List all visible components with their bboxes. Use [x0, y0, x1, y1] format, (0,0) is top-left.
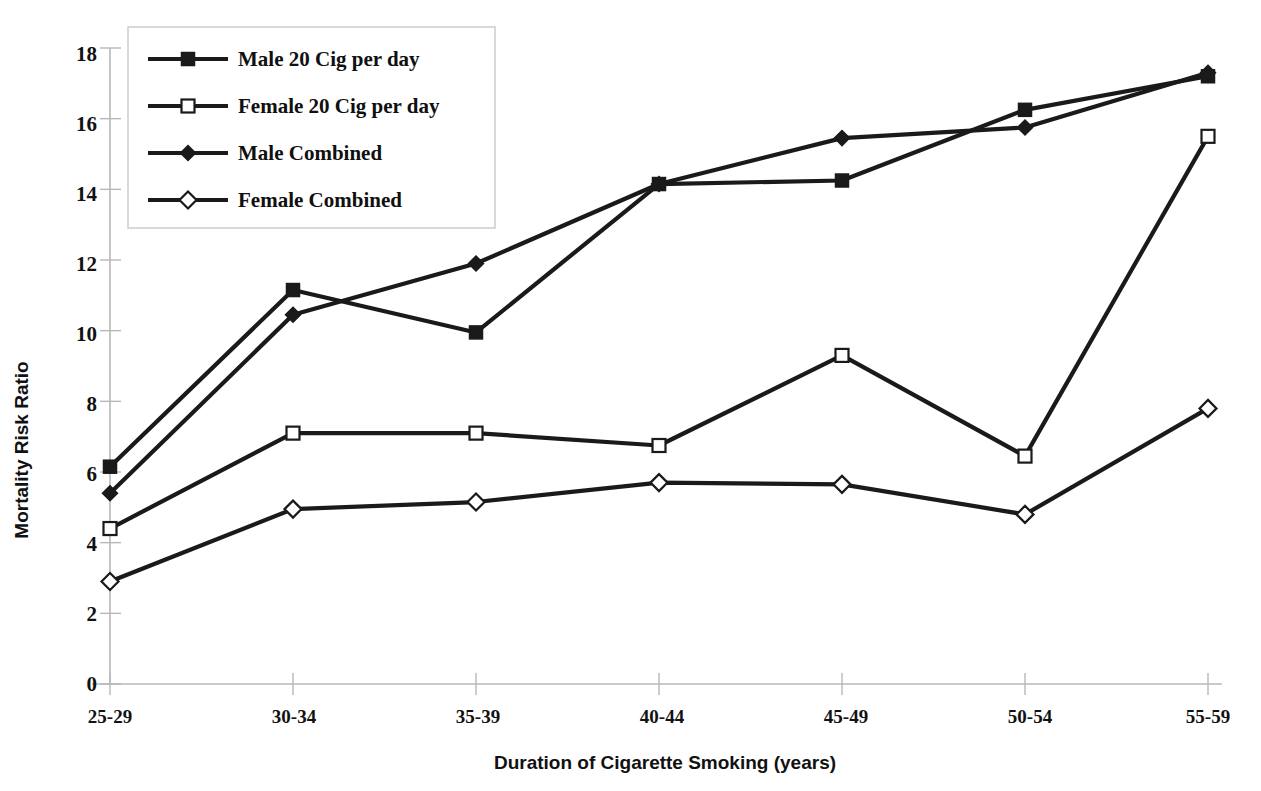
legend-label-female-combined: Female Combined	[238, 188, 402, 212]
x-tick-label-30-34: 30-34	[272, 706, 317, 727]
x-axis-title: Duration of Cigarette Smoking (years)	[494, 752, 836, 773]
y-tick-label-0: 0	[87, 672, 98, 696]
marker-filled-square	[836, 174, 849, 187]
y-tick-label-10: 10	[76, 322, 97, 346]
legend: Male 20 Cig per day Female 20 Cig per da…	[128, 27, 495, 228]
x-tick-label-40-44: 40-44	[640, 706, 685, 727]
marker-open-square	[653, 439, 666, 452]
x-tick-label-45-49: 45-49	[824, 706, 868, 727]
y-tick-label-14: 14	[76, 182, 98, 206]
x-tick-label-50-54: 50-54	[1008, 706, 1053, 727]
marker-filled-square	[470, 326, 483, 339]
x-tick-label-35-39: 35-39	[456, 706, 500, 727]
y-tick-label-8: 8	[87, 392, 98, 416]
legend-label-male-20-cig: Male 20 Cig per day	[238, 47, 420, 71]
y-axis-title: Mortality Risk Ratio	[11, 361, 32, 538]
marker-open-square	[1019, 450, 1032, 463]
marker-open-square	[182, 100, 195, 113]
marker-filled-square	[104, 460, 117, 473]
marker-filled-square	[287, 284, 300, 297]
legend-label-male-combined: Male Combined	[238, 141, 382, 165]
x-tick-label-55-59: 55-59	[1186, 706, 1230, 727]
y-tick-label-2: 2	[87, 602, 98, 626]
chart-container: 0 2 4 6 8 10 12 14 16 18 25-29 30-34 35-…	[0, 0, 1261, 791]
marker-open-square	[470, 427, 483, 440]
y-tick-label-18: 18	[76, 42, 97, 66]
y-tick-label-12: 12	[76, 252, 97, 276]
marker-open-square	[287, 427, 300, 440]
line-chart: 0 2 4 6 8 10 12 14 16 18 25-29 30-34 35-…	[0, 0, 1261, 791]
marker-open-square	[1202, 130, 1215, 143]
legend-label-female-20-cig: Female 20 Cig per day	[238, 94, 440, 118]
x-tick-label-25-29: 25-29	[88, 706, 132, 727]
y-tick-label-4: 4	[87, 532, 98, 556]
marker-filled-square	[182, 53, 195, 66]
y-tick-label-6: 6	[87, 462, 98, 486]
marker-filled-square	[1019, 103, 1032, 116]
y-tick-label-16: 16	[76, 112, 97, 136]
marker-open-square	[836, 349, 849, 362]
marker-open-square	[104, 522, 117, 535]
